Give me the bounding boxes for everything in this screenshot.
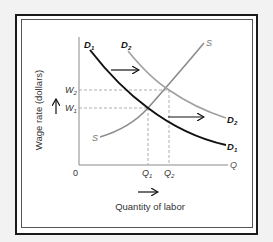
origin-label: 0 (73, 168, 78, 178)
w1-label: W1 (65, 103, 77, 114)
q1-label: Q1 (142, 168, 152, 179)
x-axis-end-label: Q (230, 160, 237, 170)
d1-top-label: D1 (84, 39, 95, 51)
w2-label: W2 (65, 85, 78, 96)
s-top-label: S (206, 38, 212, 48)
q2-label: Q2 (164, 168, 175, 179)
d1-end-label: D1 (227, 141, 238, 153)
y-axis-label: Wage rate (dollars) (33, 70, 44, 150)
x-axis-label: Quantity of labor (115, 201, 185, 212)
labor-market-diagram: Wage rate (dollars) Quantity of labor 0 … (0, 0, 273, 242)
s-bottom-label: S (92, 133, 98, 143)
demand-curve-d2 (128, 51, 226, 118)
d2-top-label: D2 (121, 39, 132, 51)
d2-end-label: D2 (227, 114, 238, 126)
